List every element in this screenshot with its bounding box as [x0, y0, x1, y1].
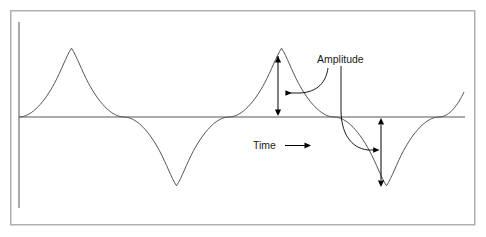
amplitude-label: Amplitude: [317, 53, 364, 65]
waveform-figure: Amplitude Time: [0, 0, 486, 237]
time-label: Time: [253, 139, 276, 151]
waveform-canvas: Amplitude Time: [0, 0, 486, 237]
